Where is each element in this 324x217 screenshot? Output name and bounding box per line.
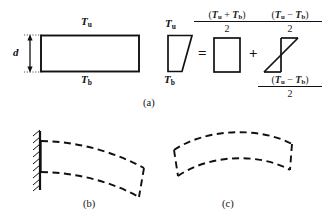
gradient-component-fraction-top: (Tu − Tb) 2 (258, 9, 322, 34)
uniform-component-fraction: (Tu + Tb) 2 (194, 9, 260, 34)
fraction-numerator: (Tu + Tb) (194, 9, 260, 21)
free-beam-curved-shape (174, 132, 292, 176)
cross-section-rectangle (41, 36, 139, 72)
fraction-denominator: 2 (194, 23, 260, 34)
trapezoid-top-temp-label: Tu (165, 18, 176, 30)
operator-text: − (285, 9, 296, 20)
temp-subscript: b (171, 78, 175, 87)
temp-symbol: T (164, 73, 171, 85)
temp-subscript: u (172, 22, 176, 31)
fraction-numerator: (Tu − Tb) (258, 9, 322, 21)
fraction-bar (258, 21, 322, 22)
paren-close: ) (305, 74, 308, 85)
gradient-component-fraction-bottom: (Tu − Tb) 2 (258, 74, 322, 99)
fraction-bar (194, 21, 260, 22)
cross-section-top-temp-label: Tu (81, 16, 92, 28)
depth-dimension-arrow (27, 34, 32, 73)
cross-section-bottom-temp-label: Tb (81, 74, 92, 86)
fraction-denominator: 2 (258, 88, 322, 99)
paren-close: ) (242, 9, 245, 20)
fixed-support-wall (33, 130, 40, 191)
trapezoid-bottom-temp-label: Tb (164, 74, 175, 86)
fraction-denominator: 2 (258, 23, 322, 34)
cantilever-deflected-beam (41, 141, 144, 197)
operator-text: − (285, 74, 296, 85)
panel-caption-c: (c) (222, 199, 234, 210)
temp-symbol: T (81, 73, 88, 85)
fraction-numerator: (Tu − Tb) (258, 74, 322, 86)
temp-symbol: T (81, 15, 88, 27)
thermal-gradient-figure: d Tu Tb Tu Tb = + (Tu + Tb) 2 (Tu − Tb) … (0, 0, 324, 217)
temperature-profile-trapezoid (168, 36, 192, 72)
temp-subscript: b (88, 78, 92, 87)
uniform-component-rectangle (214, 38, 240, 72)
panel-caption-b: (b) (83, 199, 95, 210)
temp-subscript: u (88, 20, 92, 29)
operator-text: + (222, 9, 233, 20)
fraction-bar (258, 86, 322, 87)
panel-caption-a: (a) (143, 98, 155, 109)
temp-symbol: T (165, 17, 172, 29)
equals-operator: = (198, 46, 207, 61)
plus-operator: + (249, 46, 258, 61)
gradient-component-z-shape (264, 38, 298, 72)
paren-close: ) (305, 9, 308, 20)
dimension-witness-lines (24, 35, 42, 72)
depth-label: d (13, 47, 19, 58)
